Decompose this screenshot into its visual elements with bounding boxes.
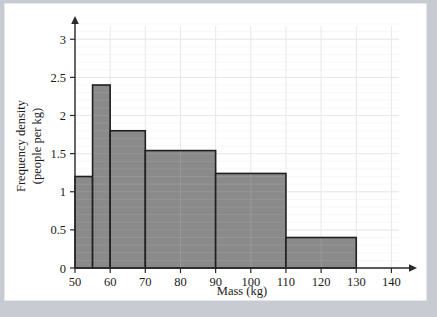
y-tick-label: 1 (60, 185, 66, 199)
x-axis-title: Mass (kg) (217, 284, 267, 298)
x-tick-label: 60 (104, 275, 117, 289)
y-axis-title: Frequency density (people per kg) (14, 99, 44, 192)
x-axis-arrow-icon (409, 264, 417, 272)
x-tick-label: 80 (174, 275, 187, 289)
y-axis-title-line2: (people per kg) (30, 108, 44, 184)
x-tick-label: 110 (277, 275, 295, 289)
y-tick-label: 0.5 (50, 223, 66, 237)
y-tick-label: 0 (60, 262, 66, 276)
x-tick-label: 50 (69, 275, 82, 289)
y-tick-label: 2.5 (50, 71, 66, 85)
x-tick-label: 140 (382, 275, 401, 289)
y-tick-label: 1.5 (50, 147, 66, 161)
y-axis-ticks: 00.511.522.53 (50, 33, 75, 276)
page-background: 5060708090100110120130140 00.511.522.53 … (0, 0, 437, 317)
x-tick-label: 130 (347, 275, 366, 289)
y-tick-label: 3 (60, 33, 66, 47)
x-tick-label: 120 (312, 275, 331, 289)
histogram-figure: 5060708090100110120130140 00.511.522.53 … (5, 4, 426, 300)
y-tick-label: 2 (60, 109, 66, 123)
paper-sheet: 5060708090100110120130140 00.511.522.53 … (5, 4, 426, 300)
x-tick-label: 70 (139, 275, 152, 289)
y-axis-title-line1: Frequency density (14, 99, 28, 192)
y-axis-arrow-icon (71, 16, 79, 24)
histogram-svg: 5060708090100110120130140 00.511.522.53 … (5, 4, 426, 300)
